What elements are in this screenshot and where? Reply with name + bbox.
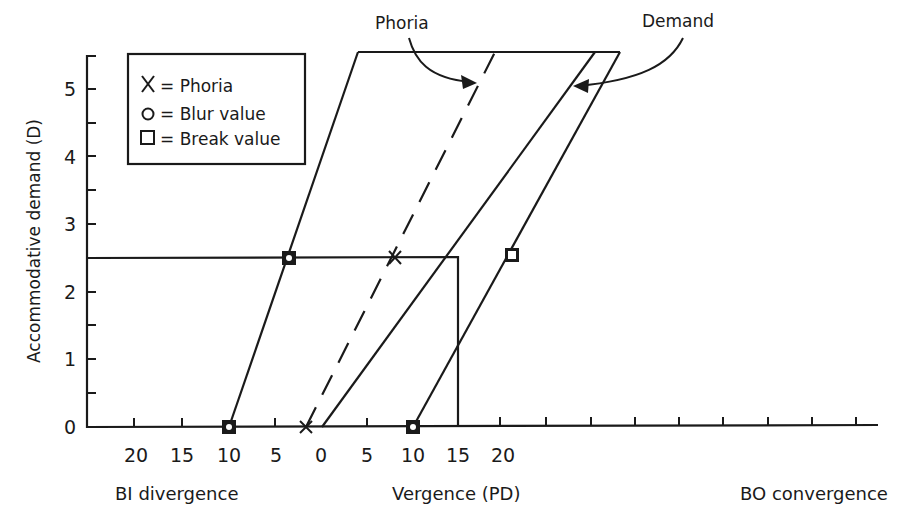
phoria-arrowhead [461, 75, 477, 89]
chart-canvas: 0 1 2 3 4 5 Accommodative demand (D) 20 … [0, 0, 917, 522]
test-distance-line [87, 257, 458, 427]
break-blur-markers [222, 248, 519, 434]
x-tick-label: 20 [124, 444, 148, 466]
y-tick-label: 2 [64, 281, 76, 303]
demand-arrow [578, 38, 683, 86]
legend: = Phoria = Blur value = Break value [128, 54, 305, 164]
x-tick-labels: 20 15 10 5 0 5 10 15 20 [124, 444, 515, 466]
y-tick-labels: 0 1 2 3 4 5 [64, 78, 76, 438]
y-tick-label: 0 [64, 416, 76, 438]
annotation-arrows [409, 38, 683, 86]
legend-label-blur: = Blur value [160, 104, 266, 124]
arrow-heads [461, 75, 589, 93]
x-tick-label: 10 [401, 444, 425, 466]
phoria-line [306, 52, 495, 427]
bo-boundary-line [413, 52, 620, 427]
y-tick-label: 3 [64, 213, 76, 235]
x-axis-title: Vergence (PD) [392, 483, 520, 504]
y-tick-label: 1 [64, 348, 76, 370]
y-ticks [87, 56, 96, 393]
annotation-demand: Demand [642, 11, 714, 31]
y-tick-label: 4 [64, 146, 76, 168]
y-axis-title: Accommodative demand (D) [24, 119, 44, 363]
legend-label-break: = Break value [160, 129, 281, 149]
demand-arrowhead [573, 79, 589, 93]
x-tick-label: 15 [170, 444, 194, 466]
x-tick-label: 10 [217, 444, 241, 466]
legend-label-phoria: = Phoria [160, 76, 233, 96]
x-tick-label: 5 [361, 444, 373, 466]
x-tick-label: 5 [270, 444, 282, 466]
bo-convergence-label: BO convergence [740, 483, 888, 504]
x-tick-label: 20 [491, 444, 515, 466]
phoria-arrow [409, 38, 470, 82]
phoria-markers [300, 251, 401, 433]
annotation-phoria: Phoria [375, 13, 429, 33]
y-tick-label: 5 [64, 78, 76, 100]
x-tick-label: 15 [446, 444, 470, 466]
x-tick-label: 0 [315, 444, 327, 466]
bi-divergence-label: BI divergence [115, 483, 239, 504]
x-axis [87, 425, 878, 427]
